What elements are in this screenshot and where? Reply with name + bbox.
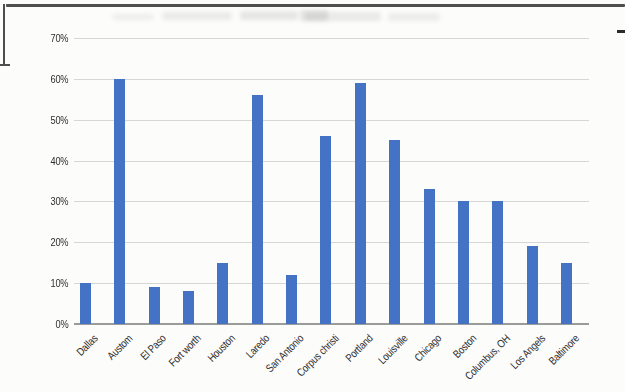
- bar-baltimore: [561, 263, 572, 324]
- bar-san-antonio: [286, 275, 297, 324]
- gridline-50: [74, 120, 589, 121]
- ghost-smudge: [300, 10, 328, 21]
- bar-columbus-oh: [492, 201, 503, 324]
- gridline-10: [74, 283, 589, 284]
- bar-louisville: [389, 140, 400, 324]
- gridline-60: [74, 79, 589, 80]
- gridline-70: [74, 38, 589, 39]
- y-axis-tick-label: 50%: [50, 114, 68, 127]
- table-border-left-tick: [0, 64, 10, 66]
- bar-los-angels: [527, 246, 538, 324]
- y-axis-tick-label: 20%: [50, 236, 68, 249]
- x-axis-label: Houston: [205, 332, 237, 364]
- y-axis-tick-label: 40%: [50, 155, 68, 168]
- y-axis-tick-label: 10%: [50, 277, 68, 290]
- bar-el-paso: [149, 287, 160, 324]
- table-border-top-line: [6, 4, 625, 7]
- table-border-left-bracket: [3, 4, 5, 66]
- x-axis-label: Louisville: [375, 332, 409, 366]
- gridline-40: [74, 161, 589, 162]
- table-border-right-dash: [617, 30, 625, 33]
- x-axis-label: Fort worth: [166, 332, 203, 369]
- bar-dallas: [80, 283, 91, 324]
- ghost-smudge: [388, 13, 440, 21]
- y-axis-tick-label: 60%: [50, 73, 68, 86]
- gridline-30: [74, 201, 589, 202]
- bar-fort-worth: [183, 291, 194, 324]
- ghost-smudge: [162, 12, 232, 20]
- scanned-page: 0%10%20%30%40%50%60%70%DallasAustomEl Pa…: [0, 0, 625, 392]
- bar-houston: [217, 263, 228, 324]
- bar-austom: [114, 79, 125, 324]
- x-axis-label: Austom: [104, 332, 134, 362]
- y-axis-tick-label: 70%: [50, 32, 68, 45]
- bar-corpus-christi: [320, 136, 331, 324]
- x-axis-label: Los Angels: [508, 332, 547, 371]
- gridline-20: [74, 242, 589, 243]
- bar-chicago: [424, 189, 435, 324]
- x-axis-label: Dallas: [74, 332, 100, 358]
- bar-portland: [355, 83, 366, 324]
- x-axis-label: Boston: [450, 332, 478, 360]
- x-axis-label: Laredo: [244, 332, 272, 360]
- y-axis-tick-label: 30%: [50, 195, 68, 208]
- ghost-smudge: [112, 14, 154, 20]
- y-axis-tick-label: 0%: [55, 318, 68, 331]
- bar-boston: [458, 201, 469, 324]
- ghost-smudge: [240, 11, 298, 20]
- x-axis-label: Baltimore: [546, 332, 581, 367]
- x-axis-label: Chicago: [412, 332, 444, 364]
- x-axis-label: El Paso: [138, 332, 168, 362]
- x-axis-label: Portland: [343, 332, 375, 364]
- bar-laredo: [252, 95, 263, 324]
